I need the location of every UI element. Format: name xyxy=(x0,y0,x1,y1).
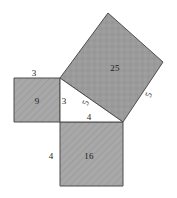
geometry-figure xyxy=(0,0,177,198)
label-area-16: 16 xyxy=(84,152,93,161)
label-side-b-inner: 4 xyxy=(87,113,92,122)
label-side-b-left: 4 xyxy=(49,152,54,161)
label-area-25: 25 xyxy=(110,64,119,73)
label-area-9: 9 xyxy=(35,97,40,106)
label-side-a-top: 3 xyxy=(32,69,37,78)
label-side-a-inner: 3 xyxy=(62,97,67,106)
pythagorean-diagram-canvas: 3 9 3 5 4 4 16 25 5 xyxy=(0,0,177,198)
